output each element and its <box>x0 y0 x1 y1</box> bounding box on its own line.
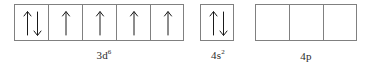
orbital-label-3d: 3d6 <box>54 50 154 61</box>
electron-arrow-up <box>151 5 183 40</box>
electron-arrow-pair <box>15 5 48 40</box>
orbital-label-4p: 4p <box>259 51 353 62</box>
orbital-box <box>48 4 82 41</box>
orbital-box-row-4p <box>255 4 357 41</box>
electron-arrow-up <box>117 5 150 40</box>
orbital-box-diagram: 3d6 4s2 4p <box>0 0 369 72</box>
orbital-box <box>323 4 357 41</box>
orbital-label-4p-text: 4p <box>300 50 311 62</box>
orbital-box-row-4s <box>200 4 234 41</box>
orbital-label-4s-text: 4s <box>211 49 221 61</box>
orbital-box <box>116 4 150 41</box>
orbital-box <box>289 4 323 41</box>
electron-arrow-up <box>83 5 116 40</box>
orbital-box <box>14 4 48 41</box>
orbital-label-3d-superscript: 6 <box>108 48 112 56</box>
electron-arrow-up <box>49 5 82 40</box>
orbital-box <box>255 4 289 41</box>
electron-arrow-pair <box>201 5 233 40</box>
orbital-label-4s-superscript: 2 <box>221 48 225 56</box>
orbital-label-3d-text: 3d <box>96 49 107 61</box>
orbital-box <box>82 4 116 41</box>
orbital-box <box>150 4 184 41</box>
orbital-box-row-3d <box>14 4 184 41</box>
orbital-label-4s: 4s2 <box>188 50 248 61</box>
orbital-box <box>200 4 234 41</box>
